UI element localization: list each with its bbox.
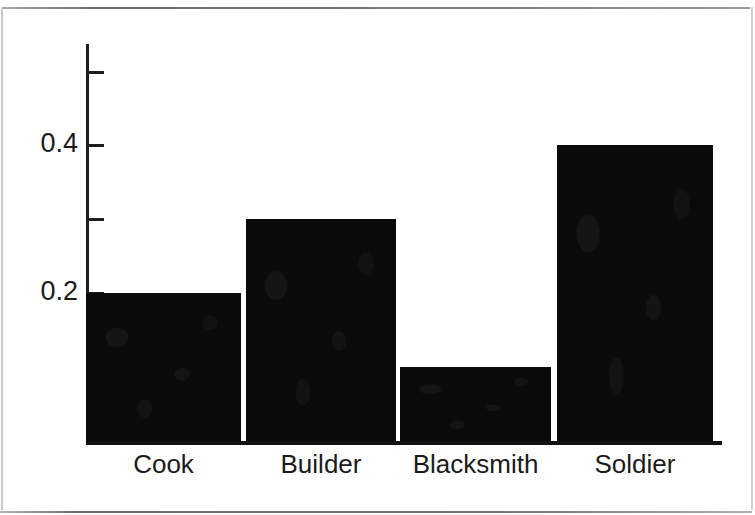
bar-soldier [557, 145, 713, 441]
figure-canvas: 0.40.2 CookBuilderBlacksmithSoldier [0, 0, 755, 515]
y-tick-0-3 [89, 218, 104, 221]
y-tick-0-5 [89, 71, 104, 74]
bar-blacksmith [400, 367, 551, 441]
x-axis-line [86, 441, 722, 445]
bar-builder [246, 219, 396, 441]
y-tick-label: 0.2 [20, 278, 78, 305]
x-label-soldier: Soldier [527, 449, 743, 479]
bar-chart-plot: 0.40.2 CookBuilderBlacksmithSoldier [0, 0, 755, 515]
y-tick-0-4 [89, 144, 104, 147]
y-tick-label: 0.4 [20, 130, 78, 157]
bar-cook [86, 293, 241, 441]
